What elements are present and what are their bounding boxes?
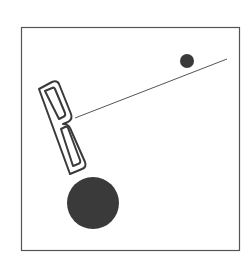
frame [22,28,240,251]
diagram-canvas [0,0,246,263]
letter-b-outline [39,81,86,174]
large-circle [67,177,119,229]
small-dot [180,54,194,68]
connector-line [75,59,227,118]
